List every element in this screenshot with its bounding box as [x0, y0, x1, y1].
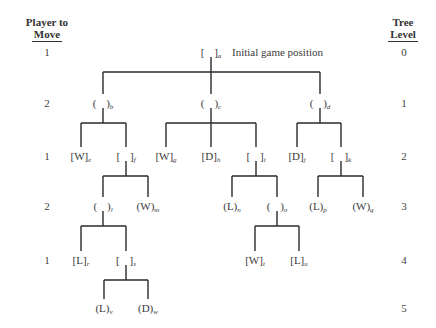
tree-nodes: [ ]a( )b( )c( )d[W]e[ ]f[W]g[D]h[ ]i[D]j… — [71, 46, 375, 316]
node-label: ( )d — [310, 97, 331, 111]
node-n: (L)n — [223, 200, 241, 214]
node-label: (L)p — [309, 200, 327, 214]
edge-b — [81, 108, 126, 147]
node-id: k — [348, 156, 352, 164]
node-id: n — [237, 206, 241, 214]
edge-i — [232, 161, 277, 197]
node-label: [ ]a — [201, 46, 222, 60]
node-h: [D]h — [202, 150, 221, 164]
node-o: ( )o — [267, 200, 288, 214]
node-id: s — [133, 260, 136, 268]
node-label: (L)v — [95, 302, 113, 316]
node-label: [ ]s — [116, 254, 136, 268]
node-id: u — [304, 260, 308, 268]
edge-o — [255, 211, 299, 251]
node-label: [L]u — [290, 254, 308, 268]
node-id: d — [327, 103, 331, 111]
node-label: [D]j — [288, 150, 305, 164]
node-id: o — [284, 206, 288, 214]
node-l: ( )l — [93, 200, 112, 214]
node-label: [ ]f — [116, 150, 136, 164]
node-w: (D)w — [138, 302, 158, 316]
node-id: l — [111, 206, 113, 214]
edge-a — [103, 57, 320, 94]
edge-c — [166, 108, 256, 147]
node-f: [ ]f — [116, 150, 136, 164]
node-d: ( )d — [310, 97, 331, 111]
node-id: f — [134, 156, 137, 164]
node-id: a — [218, 52, 222, 60]
node-id: q — [370, 206, 374, 214]
node-e: [W]e — [71, 150, 92, 164]
node-label: [L]r — [73, 254, 90, 268]
edge-d — [297, 108, 341, 147]
node-label: [ ]k — [331, 150, 352, 164]
node-label: [ ]i — [246, 150, 265, 164]
node-id: i — [264, 156, 266, 164]
node-label: ( )c — [201, 97, 222, 111]
edge-k — [318, 161, 363, 197]
node-v: (L)v — [95, 302, 113, 316]
root-annotation: Initial game position — [232, 46, 324, 58]
node-label: ( )b — [93, 97, 114, 111]
node-label: [W]e — [71, 150, 92, 164]
node-k: [ ]k — [331, 150, 352, 164]
node-p: (L)p — [309, 200, 327, 214]
node-m: (W)m — [137, 200, 160, 214]
node-label: [W]t — [245, 254, 266, 268]
node-id: t — [263, 260, 266, 268]
node-j: [D]j — [288, 150, 305, 164]
node-label: ( )o — [267, 200, 288, 214]
node-id: g — [173, 156, 177, 164]
node-u: [L]u — [290, 254, 308, 268]
node-i: [ ]i — [246, 150, 265, 164]
node-c: ( )c — [201, 97, 222, 111]
node-g: [W]g — [155, 150, 177, 164]
node-id: b — [110, 103, 114, 111]
node-id: j — [303, 156, 306, 164]
node-label: [D]h — [202, 150, 221, 164]
edge-f — [103, 161, 148, 197]
node-t: [W]t — [245, 254, 266, 268]
edge-l — [81, 211, 126, 251]
node-id: e — [88, 156, 91, 164]
node-id: v — [109, 308, 113, 316]
node-label: (W)m — [137, 200, 160, 214]
node-r: [L]r — [73, 254, 90, 268]
edge-s — [104, 265, 148, 299]
node-id: p — [322, 206, 327, 214]
node-label: ( )l — [93, 200, 112, 214]
node-id: c — [218, 103, 222, 111]
node-id: w — [153, 308, 158, 316]
node-label: (L)n — [223, 200, 241, 214]
node-q: (W)q — [352, 200, 374, 214]
node-id: h — [217, 156, 221, 164]
node-a: [ ]a — [201, 46, 222, 60]
node-id: r — [87, 260, 90, 268]
node-label: (D)w — [138, 302, 158, 316]
node-id: m — [154, 206, 159, 214]
node-s: [ ]s — [116, 254, 136, 268]
node-label: [W]g — [155, 150, 177, 164]
node-b: ( )b — [93, 97, 114, 111]
game-tree: [ ]a( )b( )c( )d[W]e[ ]f[W]g[D]h[ ]i[D]j… — [0, 0, 436, 328]
node-label: (W)q — [352, 200, 374, 214]
